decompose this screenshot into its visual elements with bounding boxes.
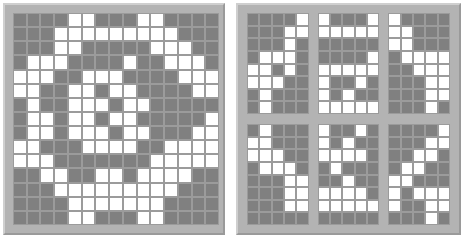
subgrid-4-cell-0-1 <box>259 124 271 137</box>
left-grid-cell-1-11 <box>164 27 178 41</box>
left-grid-cell-12-11 <box>164 183 178 197</box>
subgrid-5-cell-2-4 <box>367 149 379 162</box>
left-grid-cell-2-6 <box>95 41 109 55</box>
subgrid-6-cell-7-3 <box>425 212 437 225</box>
subgrid-2-cell-2-0 <box>318 38 330 51</box>
left-grid-cell-4-13 <box>192 70 206 84</box>
subgrid-5-cell-2-3 <box>355 149 367 162</box>
left-grid-cell-13-6 <box>95 197 109 211</box>
left-grid-cell-4-4 <box>68 70 82 84</box>
left-grid-cell-12-5 <box>82 183 96 197</box>
subgrid-2-cell-0-3 <box>355 13 367 26</box>
subgrid-3-cell-1-0 <box>388 26 400 39</box>
subgrid-2-cell-6-4 <box>367 89 379 102</box>
subgrid-6-cell-0-3 <box>425 124 437 137</box>
left-grid-cell-11-5 <box>82 168 96 182</box>
subgrid-6-cell-4-0 <box>388 175 400 188</box>
left-grid-cell-13-1 <box>27 197 41 211</box>
subgrid-2-cell-3-0 <box>318 51 330 64</box>
subgrid-1-cell-2-0 <box>247 38 259 51</box>
left-grid-cell-2-4 <box>68 41 82 55</box>
left-grid-cell-11-14 <box>205 168 219 182</box>
subgrid-2-cell-1-0 <box>318 26 330 39</box>
figure-root <box>0 0 464 238</box>
subgrid-4-cell-7-0 <box>247 212 259 225</box>
left-grid-cell-5-11 <box>164 84 178 98</box>
subgrid-5-cell-6-2 <box>342 200 354 213</box>
subgrid-1-cell-1-4 <box>296 26 308 39</box>
subgrid-1-cell-6-1 <box>259 89 271 102</box>
subgrid-3-cell-3-2 <box>413 51 425 64</box>
left-grid-cell-8-6 <box>95 126 109 140</box>
subgrid-1-cell-0-3 <box>284 13 296 26</box>
subgrid-3-cell-4-0 <box>388 64 400 77</box>
left-grid-cell-3-5 <box>82 55 96 69</box>
subgrid-2-cell-1-1 <box>330 26 342 39</box>
subgrid-2-cell-6-2 <box>342 89 354 102</box>
subgrid-1-cell-3-1 <box>259 51 271 64</box>
subgrid-3 <box>388 13 450 114</box>
subgrid-3-cell-7-3 <box>425 101 437 114</box>
subgrid-1-cell-4-0 <box>247 64 259 77</box>
left-grid-cell-12-9 <box>137 183 151 197</box>
subgrid-1-cell-2-4 <box>296 38 308 51</box>
left-grid-cell-14-13 <box>192 211 206 225</box>
left-grid-cell-9-9 <box>137 140 151 154</box>
subgrid-4-cell-2-2 <box>272 149 284 162</box>
left-grid-cell-7-3 <box>54 112 68 126</box>
left-grid-cell-3-10 <box>150 55 164 69</box>
subgrid-3-cell-2-0 <box>388 38 400 51</box>
left-grid-cell-5-7 <box>109 84 123 98</box>
subgrid-3-cell-1-4 <box>438 26 450 39</box>
subgrid-1-cell-6-3 <box>284 89 296 102</box>
left-grid-cell-4-3 <box>54 70 68 84</box>
subgrid-3-cell-1-1 <box>401 26 413 39</box>
left-grid-cell-6-8 <box>123 98 137 112</box>
left-grid-cell-9-14 <box>205 140 219 154</box>
left-grid-cell-5-10 <box>150 84 164 98</box>
left-grid-cell-0-11 <box>164 13 178 27</box>
subgrid-2-cell-3-3 <box>355 51 367 64</box>
left-grid-cell-6-14 <box>205 98 219 112</box>
left-grid-cell-1-0 <box>13 27 27 41</box>
left-grid-cell-11-13 <box>192 168 206 182</box>
subgrid-4-cell-6-2 <box>272 200 284 213</box>
subgrid-6-cell-2-4 <box>438 149 450 162</box>
left-grid-cell-12-2 <box>40 183 54 197</box>
left-grid-cell-2-8 <box>123 41 137 55</box>
left-grid-cell-9-6 <box>95 140 109 154</box>
subgrid-5-cell-5-1 <box>330 187 342 200</box>
subgrid-1-cell-4-3 <box>284 64 296 77</box>
left-grid-cell-4-1 <box>27 70 41 84</box>
subgrid-3-cell-2-1 <box>401 38 413 51</box>
subgrid-1-cell-7-2 <box>272 101 284 114</box>
subgrid-4-cell-2-3 <box>284 149 296 162</box>
subgrid-5-cell-7-1 <box>330 212 342 225</box>
left-grid-cell-14-2 <box>40 211 54 225</box>
left-grid-cell-6-0 <box>13 98 27 112</box>
left-grid-cell-11-1 <box>27 168 41 182</box>
subgrid-1-cell-5-3 <box>284 76 296 89</box>
left-grid-cell-13-10 <box>150 197 164 211</box>
subgrid-5-cell-0-4 <box>367 124 379 137</box>
subgrid-4-cell-1-3 <box>284 137 296 150</box>
left-grid-cell-4-5 <box>82 70 96 84</box>
left-grid-cell-7-4 <box>68 112 82 126</box>
subgrid-6-cell-2-3 <box>425 149 437 162</box>
left-grid-cell-2-2 <box>40 41 54 55</box>
left-grid-cell-12-8 <box>123 183 137 197</box>
left-grid-cell-2-10 <box>150 41 164 55</box>
subgrid-2-cell-0-2 <box>342 13 354 26</box>
left-grid-cell-0-8 <box>123 13 137 27</box>
left-grid-cell-4-12 <box>178 70 192 84</box>
left-grid-cell-4-2 <box>40 70 54 84</box>
subgrid-6-cell-1-2 <box>413 137 425 150</box>
left-grid-cell-9-13 <box>192 140 206 154</box>
subgrid-3-cell-0-4 <box>438 13 450 26</box>
left-grid-cell-14-11 <box>164 211 178 225</box>
left-grid-cell-1-5 <box>82 27 96 41</box>
left-grid-cell-12-1 <box>27 183 41 197</box>
subgrid-4-cell-6-1 <box>259 200 271 213</box>
subgrid-6-cell-6-1 <box>401 200 413 213</box>
subgrid-1-cell-6-0 <box>247 89 259 102</box>
